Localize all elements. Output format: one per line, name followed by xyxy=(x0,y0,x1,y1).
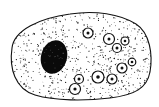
vacuole xyxy=(113,44,122,53)
vacuole xyxy=(121,37,129,45)
vacuole xyxy=(92,71,104,83)
vacuole xyxy=(107,74,117,84)
vacuole xyxy=(117,63,127,73)
vacuole xyxy=(104,34,115,45)
vacuole xyxy=(75,75,84,84)
vacuole xyxy=(128,58,136,66)
vacuole xyxy=(83,28,93,38)
cell-diagram-canvas xyxy=(0,0,159,107)
cell-diagram xyxy=(0,0,159,107)
vacuole xyxy=(70,84,81,95)
